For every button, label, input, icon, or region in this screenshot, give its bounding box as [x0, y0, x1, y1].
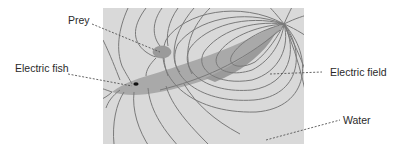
water-label: Water [343, 114, 371, 126]
prey-label: Prey [68, 14, 90, 26]
electric-field-label: Electric field [330, 66, 387, 78]
fish-eye [133, 82, 138, 86]
electric-fish-diagram: Prey Electric fish Electric field Water [0, 0, 396, 160]
prey-object [153, 46, 171, 58]
electric-fish-label: Electric fish [15, 62, 69, 74]
